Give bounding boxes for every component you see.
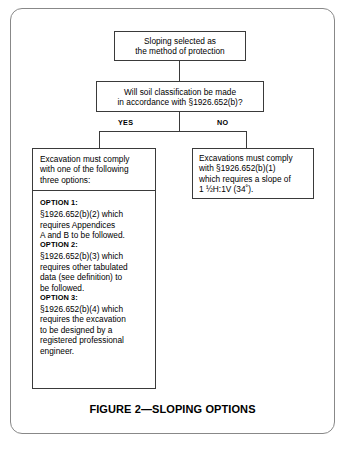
connector-yes-drop: [99, 131, 100, 148]
connector-no-drop: [246, 131, 247, 148]
option-item: OPTION 1: §1926.652(b)(2) which requires…: [40, 198, 149, 240]
option-item: OPTION 2: §1926.652(b)(3) which requires…: [40, 240, 149, 293]
flow-node-decision: Will soil classification be made in acco…: [96, 81, 264, 112]
option-2-body: §1926.652(b)(3) which requires other tab…: [40, 251, 149, 293]
figure-page: Sloping selected as the method of protec…: [0, 0, 361, 450]
option-2-title: OPTION 2:: [40, 240, 149, 250]
no-outcome-text: Excavations must comply with §1926.652(b…: [199, 153, 308, 195]
figure-caption: FIGURE 2—SLOPING OPTIONS: [10, 403, 335, 415]
option-3-body: §1926.652(b)(4) which requires the excav…: [40, 304, 149, 356]
option-1-body: §1926.652(b)(2) which requires Appendice…: [40, 209, 149, 240]
connector-decision-stem: [179, 112, 180, 131]
connector-branch-bar: [99, 131, 247, 132]
branch-label-yes: YES: [118, 118, 133, 127]
option-3-title: OPTION 3:: [40, 293, 149, 303]
option-item: OPTION 3: §1926.652(b)(4) which requires…: [40, 293, 149, 356]
flow-node-no-outcome: Excavations must comply with §1926.652(b…: [192, 148, 314, 199]
yes-outcome-options-list: OPTION 1: §1926.652(b)(2) which requires…: [33, 191, 155, 362]
flow-node-decision-text: Will soil classification be made in acco…: [97, 87, 263, 108]
branch-label-no: NO: [217, 118, 228, 127]
flow-node-start: Sloping selected as the method of protec…: [114, 31, 246, 61]
flow-node-yes-outcome: Excavation must comply with one of the f…: [32, 148, 156, 389]
connector-start-to-decision: [179, 61, 180, 81]
yes-outcome-header: Excavation must comply with one of the f…: [33, 149, 155, 191]
flow-node-start-text: Sloping selected as the method of protec…: [115, 36, 245, 57]
option-1-title: OPTION 1:: [40, 198, 149, 208]
